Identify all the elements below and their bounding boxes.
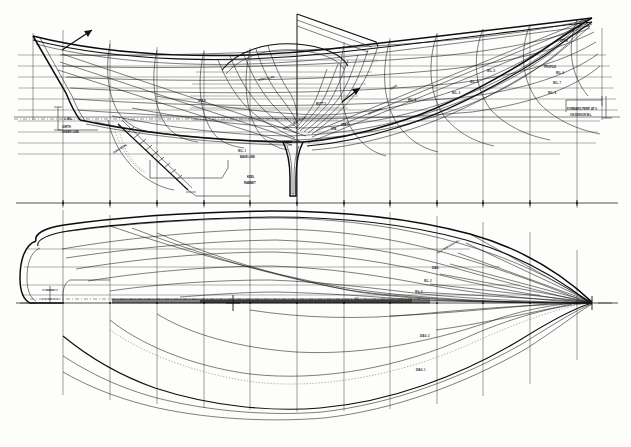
plan-transom-inner bbox=[27, 248, 40, 301]
profile-waterline-curves bbox=[60, 19, 600, 119]
profile-diagonal-lines bbox=[58, 20, 590, 145]
plan-lower-buttocks bbox=[63, 303, 592, 420]
profile-buttock-lines bbox=[95, 20, 588, 141]
body-plan-overlay bbox=[190, 14, 378, 200]
plan-station-lines bbox=[63, 208, 577, 412]
profile-station-lines bbox=[63, 14, 602, 208]
plan-diagonals-upper bbox=[110, 226, 590, 303]
plan-stern-skeg bbox=[42, 280, 110, 303]
forefoot-line bbox=[303, 18, 592, 142]
lines-plan-sheet: .g { stroke:#2b2b2b; fill:none; stroke-w… bbox=[0, 0, 631, 447]
sheer-profile-view bbox=[14, 14, 620, 208]
plan-transom bbox=[20, 241, 62, 303]
lines-plan-drawing: .g { stroke:#2b2b2b; fill:none; stroke-w… bbox=[0, 0, 631, 447]
fin-keel bbox=[283, 142, 303, 196]
bow-dimension-bracket bbox=[566, 96, 612, 118]
plan-bow-lines bbox=[418, 234, 612, 303]
plan-horizontal-grid bbox=[22, 249, 540, 295]
plan-waterlines bbox=[62, 218, 590, 303]
half-breadth-view bbox=[16, 202, 618, 420]
